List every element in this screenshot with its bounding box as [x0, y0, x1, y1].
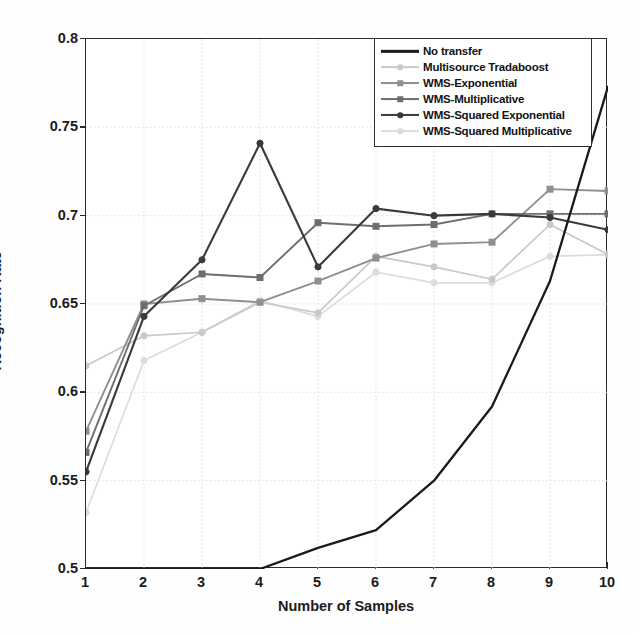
legend-item[interactable]: WMS-Squared Exponential: [381, 108, 585, 123]
x-tick-label: 2: [139, 574, 147, 590]
x-tick-label: 6: [371, 574, 379, 590]
legend-item[interactable]: Multisource Tradaboost: [381, 60, 585, 75]
data-point: [373, 255, 379, 261]
figure: Recognition Rate Number of Samples 0.50.…: [0, 0, 639, 634]
x-tick-label: 4: [255, 574, 263, 590]
legend-label: Multisource Tradaboost: [423, 61, 548, 73]
legend-marker-circle: [397, 65, 403, 71]
legend-item[interactable]: WMS-Exponential: [381, 76, 585, 91]
legend-item[interactable]: No transfer: [381, 44, 585, 59]
legend-marker-circle: [397, 113, 403, 119]
data-point: [547, 186, 553, 192]
series-line: [86, 214, 608, 453]
legend-label: WMS-Squared Exponential: [423, 109, 565, 121]
data-point: [257, 299, 263, 305]
legend-line: [381, 50, 419, 52]
data-point: [605, 188, 608, 194]
series-line: [86, 143, 608, 472]
data-point: [315, 264, 321, 270]
data-point: [141, 303, 147, 309]
data-point: [605, 251, 608, 257]
data-point: [489, 211, 495, 217]
legend-item[interactable]: WMS-Squared Multiplicative: [381, 124, 585, 139]
legend-label: No transfer: [423, 45, 482, 57]
legend-label: WMS-Exponential: [423, 77, 517, 89]
series-line: [86, 87, 608, 569]
y-tick-label: 0.5: [22, 560, 78, 576]
data-point: [86, 469, 89, 475]
data-point: [373, 206, 379, 212]
y-tick-label: 0.8: [22, 30, 78, 46]
data-point: [257, 140, 263, 146]
data-point: [199, 329, 205, 335]
legend-marker-circle: [397, 129, 403, 135]
data-point: [315, 220, 321, 226]
data-point: [199, 271, 205, 277]
x-tick-label: 10: [599, 574, 615, 590]
legend-marker-square: [397, 97, 403, 103]
y-axis-label: Recognition Rate: [0, 251, 4, 370]
data-point: [141, 333, 147, 339]
data-point: [86, 449, 89, 455]
legend-line-sample: [381, 93, 419, 105]
y-tick-label: 0.65: [22, 295, 78, 311]
legend-line-sample: [381, 77, 419, 89]
data-point: [373, 269, 379, 275]
data-point: [141, 357, 147, 363]
data-point: [547, 253, 553, 259]
data-point: [431, 264, 437, 270]
legend-line-sample: [381, 125, 419, 137]
data-point: [141, 313, 147, 319]
legend-marker-square: [397, 81, 403, 87]
data-point: [86, 363, 89, 369]
data-point: [431, 280, 437, 286]
x-tick-label: 5: [313, 574, 321, 590]
data-point: [547, 221, 553, 227]
y-tick-label: 0.6: [22, 383, 78, 399]
x-tick-label: 7: [429, 574, 437, 590]
data-point: [489, 276, 495, 282]
data-point: [547, 214, 553, 220]
series-0: [86, 87, 608, 569]
data-point: [605, 227, 608, 233]
data-point: [199, 257, 205, 263]
series-5: [86, 251, 608, 515]
y-tick-label: 0.75: [22, 118, 78, 134]
series-line: [86, 189, 608, 431]
data-point: [373, 223, 379, 229]
legend-line-sample: [381, 45, 419, 57]
legend-item[interactable]: WMS-Multiplicative: [381, 92, 585, 107]
data-point: [86, 509, 89, 515]
data-point: [431, 241, 437, 247]
y-tick-label: 0.55: [22, 472, 78, 488]
series-2: [86, 186, 608, 434]
chart-legend: No transferMultisource TradaboostWMS-Exp…: [374, 38, 592, 147]
data-point: [431, 222, 437, 228]
data-point: [315, 310, 321, 316]
series-line: [86, 255, 608, 513]
data-point: [199, 296, 205, 302]
x-tick-label: 8: [487, 574, 495, 590]
x-tick-label: 3: [197, 574, 205, 590]
series-4: [86, 140, 608, 475]
legend-line-sample: [381, 61, 419, 73]
legend-line-sample: [381, 109, 419, 121]
x-tick-label: 1: [81, 574, 89, 590]
legend-label: WMS-Multiplicative: [423, 93, 524, 105]
series-3: [86, 211, 608, 456]
data-point: [315, 278, 321, 284]
data-point: [431, 213, 437, 219]
data-point: [605, 211, 608, 217]
y-tick-label: 0.7: [22, 207, 78, 223]
x-axis-label: Number of Samples: [278, 598, 414, 614]
data-point: [86, 428, 89, 434]
data-point: [489, 239, 495, 245]
data-point: [257, 275, 263, 281]
legend-label: WMS-Squared Multiplicative: [423, 125, 572, 137]
x-tick-label: 9: [545, 574, 553, 590]
